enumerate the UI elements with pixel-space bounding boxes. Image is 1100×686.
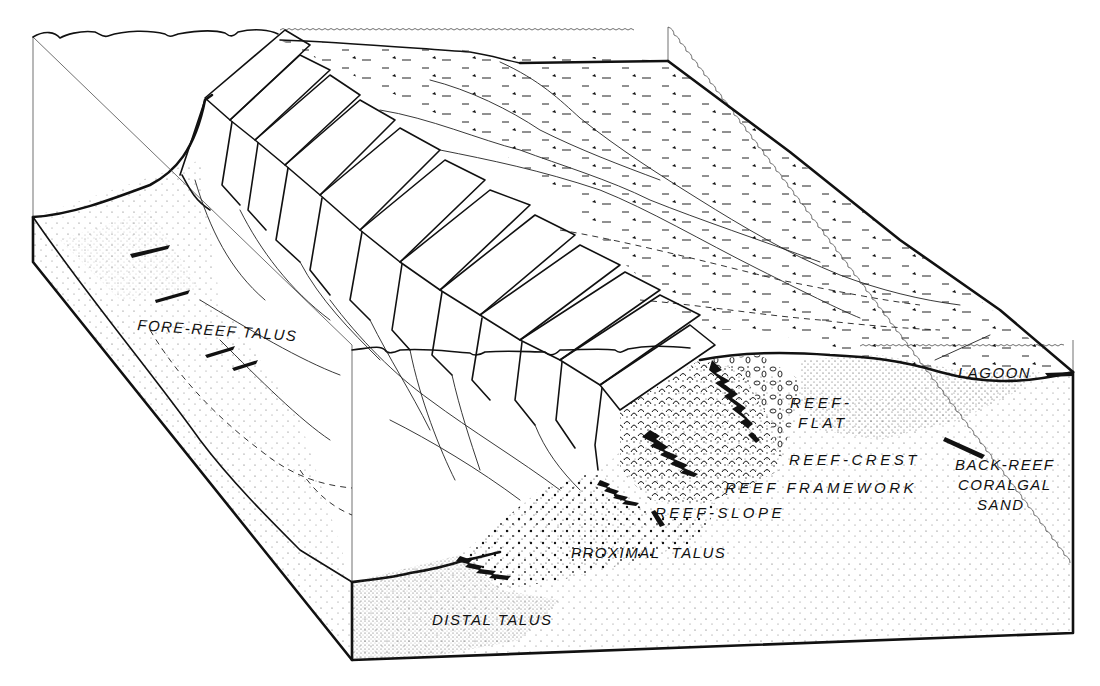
label-coralgal: CORALGAL xyxy=(958,476,1052,493)
label-distal-talus: DISTAL TALUS xyxy=(432,611,553,628)
water-surface-left xyxy=(33,30,278,38)
fore-reef-plain xyxy=(33,160,352,582)
label-reef-slope: REEF-SLOPE xyxy=(655,504,785,521)
label-lagoon: LAGOON xyxy=(958,364,1031,381)
label-reef-crest: REEF-CREST xyxy=(789,451,920,468)
label-reef-flat-1: REEF- xyxy=(790,394,853,411)
label-proximal-talus: PROXIMAL TALUS xyxy=(571,544,726,561)
lagoon-surface xyxy=(280,40,1073,372)
reef-block-diagram: FORE-REEF TALUS LAGOON REEF- FLAT REEF-C… xyxy=(0,0,1100,686)
label-back-reef: BACK-REEF xyxy=(955,456,1054,473)
label-sand: SAND xyxy=(977,496,1025,513)
label-reef-flat-2: FLAT xyxy=(798,414,848,431)
water-surface-back xyxy=(280,29,634,31)
label-reef-framework: REEF FRAMEWORK xyxy=(725,479,917,496)
